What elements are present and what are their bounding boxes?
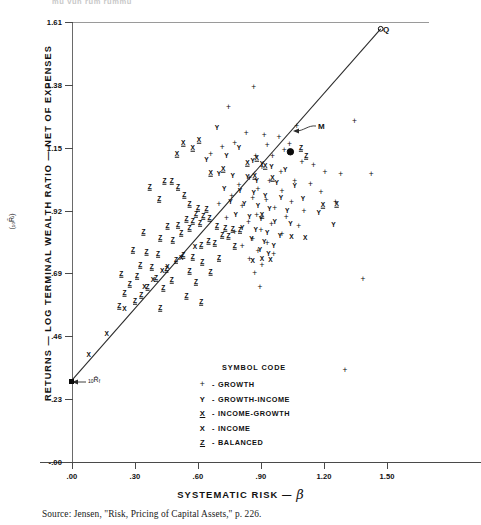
data-point-balanced: Z	[208, 215, 212, 222]
data-point-growth: +	[287, 139, 292, 147]
data-point-income-growth: X	[334, 200, 338, 207]
data-point-income: X	[104, 330, 108, 337]
data-point-growth-income: Y	[271, 242, 275, 249]
x-axis-tick	[198, 462, 199, 469]
data-point-income-growth: X	[208, 170, 212, 177]
data-point-income-growth: X	[263, 163, 267, 170]
data-point-growth-income: Y	[230, 172, 234, 179]
data-point-growth-income: Y	[288, 221, 292, 228]
data-point-growth-income: Y	[251, 190, 255, 197]
x-axis-tick-label: .30	[130, 472, 141, 481]
data-point-balanced: Z	[158, 305, 162, 312]
data-point-growth: +	[369, 169, 374, 177]
data-point-growth: +	[308, 180, 313, 188]
data-point-balanced: Z	[164, 265, 168, 272]
legend-dash: -	[209, 438, 218, 447]
data-point-growth-income: Y	[275, 180, 279, 187]
y-axis-tick	[65, 22, 73, 23]
data-point-balanced: Z	[157, 196, 161, 203]
risk-free-rate-marker	[69, 379, 74, 384]
data-point-growth-income: Y	[301, 196, 305, 203]
data-point-balanced: Z	[117, 303, 121, 310]
data-point-income-growth: X	[321, 201, 325, 208]
data-point-income: X	[289, 234, 293, 241]
data-point-balanced: Z	[170, 178, 174, 185]
data-point-balanced: Z	[188, 267, 192, 274]
data-point-growth: +	[323, 168, 328, 176]
data-point-growth-income: Y	[331, 222, 335, 229]
data-point-balanced: Z	[139, 291, 143, 298]
data-point-growth: +	[338, 170, 343, 178]
data-point-growth: +	[208, 150, 213, 158]
y-axis-tick	[65, 336, 73, 337]
x-axis-tick-label: .00	[67, 472, 78, 481]
data-point-growth-income: Y	[204, 157, 208, 164]
data-point-income-growth: X	[175, 150, 179, 157]
data-point-growth-income: Y	[247, 214, 251, 221]
data-point-growth-income: Y	[249, 236, 253, 243]
y-axis-title: RETURNS — LOG TERMINAL WEALTH RATIO — NE…	[43, 33, 53, 413]
y-axis-tick-label: .69	[28, 269, 62, 278]
data-point-growth-income: Y	[242, 201, 246, 208]
data-point-growth: +	[294, 122, 299, 130]
legend-label: GROWTH	[218, 380, 255, 389]
data-point-balanced: Z	[200, 259, 204, 266]
legend-symbol: +	[196, 379, 209, 389]
data-point-balanced: Z	[145, 249, 149, 256]
x-axis-title-text: SYSTEMATIC RISK —	[177, 489, 292, 500]
data-point-income: X	[87, 352, 91, 359]
data-point-balanced: Z	[150, 263, 154, 270]
data-point-balanced: Z	[174, 257, 178, 264]
data-point-growth-income: Y	[254, 226, 258, 233]
data-point-balanced: Z	[191, 254, 195, 261]
data-point-income-growth: X	[191, 145, 195, 152]
data-point-growth: +	[217, 200, 222, 208]
data-point-growth-income: Y	[279, 195, 283, 202]
data-point-growth-income: Y	[272, 219, 276, 226]
y-axis-tick-label: -.00	[28, 458, 62, 467]
legend-item-income-growth: X-INCOME-GROWTH	[196, 409, 290, 418]
data-point-balanced: Z	[176, 183, 180, 190]
data-point-income-growth: X	[270, 175, 274, 182]
legend-rows: +-GROWTHY-GROWTH-INCOMEX-INCOME-GROWTHX-…	[196, 379, 290, 447]
data-point-growth-income: Y	[269, 164, 273, 171]
data-point-balanced: Z	[146, 283, 150, 290]
data-point-balanced: Z	[304, 153, 308, 160]
data-point-growth-income: Y	[292, 183, 296, 190]
legend-label: INCOME	[218, 424, 251, 433]
y-axis-tick	[65, 148, 73, 149]
legend-label: INCOME-GROWTH	[218, 409, 290, 418]
legend-title: SYMBOL CODE	[222, 363, 290, 372]
data-point-growth: +	[311, 161, 316, 169]
legend-item-growth-income: Y-GROWTH-INCOME	[196, 395, 290, 404]
data-point-balanced: Z	[220, 231, 224, 238]
data-point-income-growth: X	[245, 159, 249, 166]
data-point-balanced: Z	[162, 177, 166, 184]
risk-free-rate-label: 10R̄f	[88, 376, 100, 384]
data-point-balanced: Z	[161, 285, 165, 292]
data-point-growth: +	[255, 185, 260, 193]
data-point-growth: +	[360, 275, 365, 283]
x-axis-title: SYSTEMATIC RISK — β	[0, 486, 481, 501]
data-point-growth: +	[220, 143, 225, 151]
legend-dash: -	[209, 395, 218, 404]
data-point-balanced: Z	[131, 247, 135, 254]
data-point-growth: +	[252, 269, 257, 277]
data-point-growth-income: Y	[258, 247, 262, 254]
data-point-income-growth: X	[260, 211, 264, 218]
data-point-growth-income: Y	[263, 192, 267, 199]
data-point-growth: +	[240, 242, 245, 250]
data-point-growth: +	[265, 141, 270, 149]
data-point-growth: +	[343, 366, 348, 374]
data-point-balanced: Z	[199, 299, 203, 306]
data-point-balanced: Z	[233, 243, 237, 250]
beta-symbol: β	[296, 487, 304, 502]
data-point-balanced: Z	[122, 289, 126, 296]
data-point-growth: +	[302, 206, 307, 214]
x-axis-tick	[135, 462, 136, 469]
data-point-growth-income: Y	[228, 199, 232, 206]
data-point-income: X	[250, 258, 254, 265]
data-point-growth: +	[282, 146, 287, 154]
x-axis-tick-label: .60	[193, 472, 204, 481]
cut-off-header-text: mu vun rum rummu	[52, 0, 132, 6]
